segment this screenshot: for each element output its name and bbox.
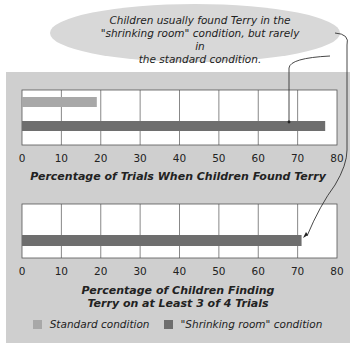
legend-label: "Shrinking room" condition (181, 318, 323, 330)
callout-line: the standard condition. (95, 53, 305, 66)
legend: Standard condition "Shrinking room" cond… (0, 318, 355, 330)
tick-label: 50 (212, 152, 225, 164)
tick-label: 70 (291, 152, 304, 164)
bar-standard (22, 97, 97, 107)
tick-label: 50 (212, 265, 225, 277)
tick-label: 80 (330, 265, 343, 277)
arrowhead-chart-1 (288, 121, 291, 124)
tick-label: 20 (94, 152, 107, 164)
tick-label: 30 (133, 265, 146, 277)
tick-label: 10 (55, 265, 68, 277)
callout-line: "shrinking room" condition, but rarely i… (95, 27, 305, 53)
tick-label: 60 (252, 265, 265, 277)
legend-label: Standard condition (50, 318, 150, 330)
tick-label: 30 (133, 152, 146, 164)
legend-item-shrinking: "Shrinking room" condition (164, 318, 323, 330)
legend-item-standard: Standard condition (33, 318, 150, 330)
legend-swatch-shrinking (164, 320, 173, 329)
chart-1: 01020304050607080 (19, 90, 344, 164)
tick-label: 40 (173, 265, 186, 277)
bar-shrinking (22, 121, 325, 131)
tick-label: 40 (173, 152, 186, 164)
legend-swatch-standard (33, 320, 42, 329)
tick-label: 0 (19, 265, 26, 277)
chart-2: 01020304050607080 (19, 204, 344, 277)
chart-2-title-line: Percentage of Children Finding (6, 284, 350, 297)
tick-label: 10 (55, 152, 68, 164)
tick-label: 80 (330, 152, 343, 164)
chart-2-title: Percentage of Children Finding Terry on … (6, 284, 350, 310)
callout-text: Children usually found Terry in the "shr… (95, 14, 305, 66)
callout-line: Children usually found Terry in the (95, 14, 305, 27)
chart-2-title-line: Terry on at Least 3 of 4 Trials (6, 297, 350, 310)
tick-label: 70 (291, 265, 304, 277)
chart-1-title: Percentage of Trials When Children Found… (6, 170, 350, 183)
tick-label: 20 (94, 265, 107, 277)
tick-label: 60 (252, 152, 265, 164)
figure: 01020304050607080 01020304050607080 Chil… (0, 0, 355, 350)
tick-label: 0 (19, 152, 26, 164)
bar-shrinking (22, 235, 302, 246)
